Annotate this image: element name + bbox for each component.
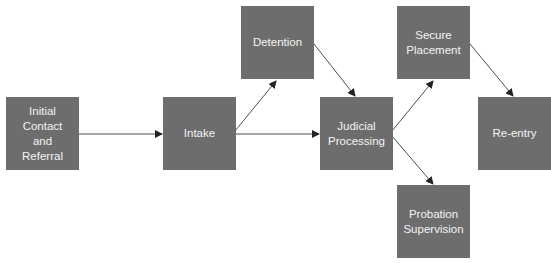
edge-judicial-to-secure [392,81,433,131]
node-label: Judicial Processing [328,119,385,149]
node-detention: Detention [241,6,314,79]
node-re-entry: Re-entry [478,97,551,170]
node-label: Intake [184,126,215,141]
node-label: Secure Placement [406,28,460,58]
node-label: Initial Contact and Referral [22,104,63,164]
edge-intake-to-detention [235,81,276,131]
node-label: Detention [253,35,302,50]
node-probation-supervision: Probation Supervision [397,185,470,258]
edge-judicial-to-probation [392,136,433,184]
edge-secure-to-reentry [470,44,513,96]
edge-detention-to-judicial [314,44,355,96]
node-secure-placement: Secure Placement [397,6,470,79]
node-label: Probation Supervision [403,207,463,237]
node-label: Re-entry [492,126,536,141]
node-initial-contact: Initial Contact and Referral [6,97,79,170]
node-intake: Intake [163,97,236,170]
node-judicial-processing: Judicial Processing [320,97,393,170]
